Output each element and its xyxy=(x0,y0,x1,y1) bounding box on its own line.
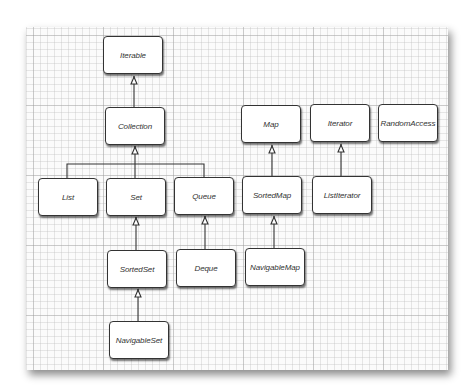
node-label: Deque xyxy=(194,264,217,273)
node-list: List xyxy=(38,178,98,216)
node-label: Map xyxy=(263,120,278,129)
node-iterable: Iterable xyxy=(103,36,163,74)
node-label: NavigableMap xyxy=(250,263,300,272)
node-label: Iterable xyxy=(120,51,146,60)
node-label: RandomAccess xyxy=(381,119,436,128)
node-label: Set xyxy=(130,193,142,202)
node-collection: Collection xyxy=(105,107,165,145)
node-label: List xyxy=(62,193,74,202)
node-queue: Queue xyxy=(174,177,234,215)
node-navigableset: NavigableSet xyxy=(109,321,169,359)
node-label: ListIterator xyxy=(324,191,361,200)
node-iterator: Iterator xyxy=(310,104,370,142)
node-randomaccess: RandomAccess xyxy=(378,104,438,142)
node-label: Queue xyxy=(192,192,216,201)
node-label: Collection xyxy=(118,122,152,131)
node-label: NavigableSet xyxy=(116,336,162,345)
node-map: Map xyxy=(241,105,301,143)
node-label: SortedSet xyxy=(120,265,155,274)
node-label: Iterator xyxy=(328,119,353,128)
node-sortedmap: SortedMap xyxy=(242,176,302,214)
node-deque: Deque xyxy=(176,249,236,287)
node-sortedset: SortedSet xyxy=(107,250,167,288)
node-listiterator: ListIterator xyxy=(312,176,372,214)
node-label: SortedMap xyxy=(253,191,291,200)
node-navigablemap: NavigableMap xyxy=(245,248,305,286)
node-set: Set xyxy=(106,178,166,216)
